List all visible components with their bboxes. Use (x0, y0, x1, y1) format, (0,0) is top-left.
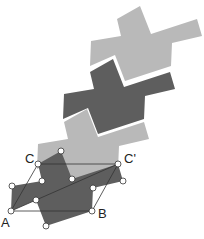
label-c-prime: C' (124, 152, 136, 165)
label-b: B (98, 207, 107, 220)
label-a: A (1, 216, 10, 229)
label-c: C (25, 152, 34, 165)
tessellation-diagram (0, 0, 204, 239)
